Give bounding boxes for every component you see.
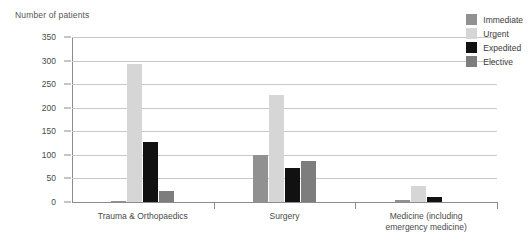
legend-item[interactable]: Urgent [466,28,523,39]
y-tick-mark [64,60,71,61]
legend-swatch-icon [466,28,477,39]
bar [301,161,316,202]
chart-legend: ImmediateUrgentExpeditedElective [466,14,523,67]
bar-group [111,37,175,202]
legend-item[interactable]: Elective [466,56,523,67]
bar [253,155,268,202]
bar [427,197,442,202]
x-tick-label: Trauma & Orthopaedics [98,211,188,222]
plot-area [72,37,497,202]
x-tick-mark [214,202,215,209]
bar [127,64,142,202]
y-tick-mark [64,154,71,155]
y-tick-mark [64,178,71,179]
y-tick-label: 300 [22,56,56,66]
y-tick-label: 250 [22,79,56,89]
y-tick-label: 0 [22,197,56,207]
bar-group [395,37,459,202]
bar [159,191,174,202]
bar [269,95,284,202]
gridline-0 [72,202,497,203]
y-axis-title: Number of patients [15,10,90,20]
legend-item-label: Expedited [483,43,521,53]
legend-item-label: Elective [483,57,513,67]
bar-group [253,37,317,202]
y-tick-label: 50 [22,173,56,183]
y-tick-mark [64,131,71,132]
legend-swatch-icon [466,56,477,67]
legend-swatch-icon [466,42,477,53]
legend-swatch-icon [466,14,477,25]
x-tick-mark [355,202,356,209]
x-tick-label: Surgery [270,211,300,222]
y-tick-label: 200 [22,103,56,113]
y-tick-label: 100 [22,150,56,160]
y-tick-mark [64,37,71,38]
y-tick-mark [64,107,71,108]
y-tick-label: 350 [22,32,56,42]
legend-item[interactable]: Expedited [466,42,523,53]
y-tick-label: 150 [22,126,56,136]
x-tick-label: Medicine (including emergency medicine) [386,211,467,232]
bar-chart: Number of patients 050100150200250300350… [0,0,531,249]
y-tick-mark [64,84,71,85]
bar [395,200,410,202]
bar [143,142,158,202]
bar [285,168,300,202]
legend-item[interactable]: Immediate [466,14,523,25]
legend-item-label: Urgent [483,29,509,39]
y-axis-line [72,37,73,202]
legend-item-label: Immediate [483,15,523,25]
x-tick-mark [497,202,498,209]
bar [111,201,126,202]
bar [411,186,426,202]
y-tick-mark [64,202,71,203]
